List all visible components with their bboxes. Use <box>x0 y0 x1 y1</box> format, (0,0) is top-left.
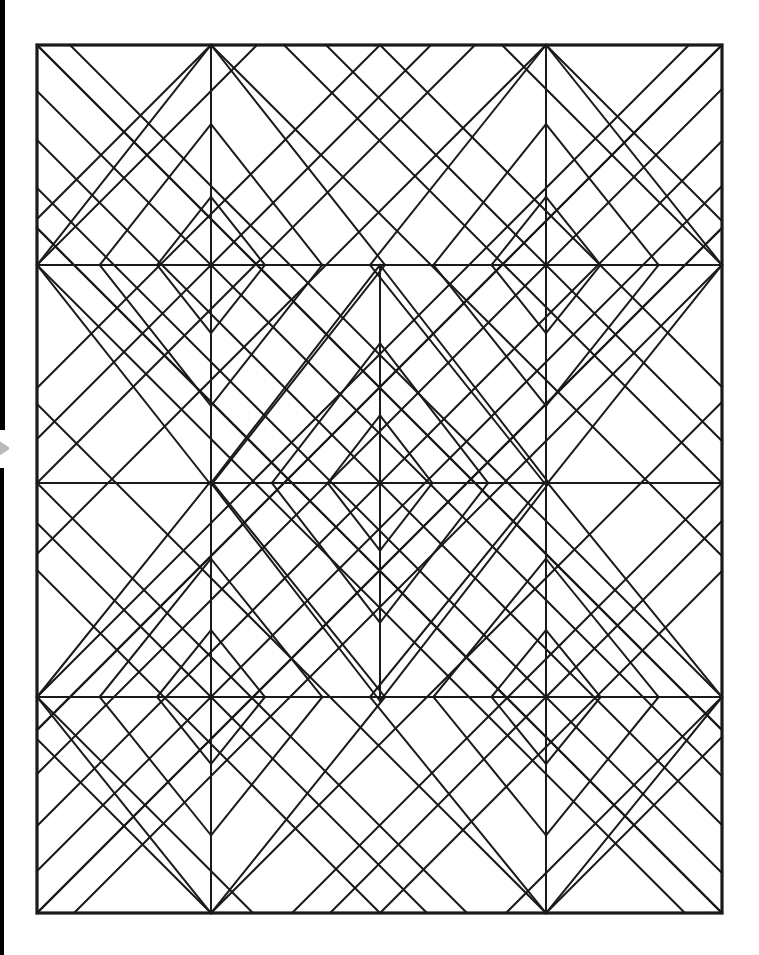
pattern-line <box>546 265 601 333</box>
pattern-line-group <box>37 45 722 913</box>
pattern-line <box>157 630 211 697</box>
pattern-line <box>370 265 546 485</box>
pattern-line <box>546 481 722 697</box>
pattern-line <box>211 697 322 835</box>
pattern-line <box>546 630 601 697</box>
pattern-line <box>157 197 211 265</box>
pattern-line <box>380 415 432 483</box>
quilt-pattern-drawing <box>0 0 759 955</box>
pattern-line <box>211 630 265 697</box>
pattern-line <box>433 265 546 406</box>
pattern-line <box>328 483 380 551</box>
pattern-line <box>37 45 211 265</box>
pattern-line <box>380 343 488 483</box>
pattern-line <box>380 483 432 551</box>
pattern-line <box>380 483 549 701</box>
pattern-line <box>370 45 546 265</box>
pattern-line <box>157 265 211 333</box>
pattern-line <box>546 697 722 913</box>
page-canvas <box>0 0 759 955</box>
pattern-line <box>211 559 322 697</box>
pattern-line <box>546 697 601 764</box>
pattern-line <box>491 197 546 265</box>
pattern-line <box>546 197 601 265</box>
pattern-line <box>37 481 211 697</box>
pattern-line <box>37 697 211 913</box>
pattern-line <box>546 45 722 265</box>
pattern-line <box>546 697 659 835</box>
pattern-line <box>272 343 380 483</box>
pattern-line <box>211 124 322 265</box>
pattern-line <box>546 559 659 697</box>
pattern-line <box>157 697 211 764</box>
pattern-line <box>370 697 546 913</box>
